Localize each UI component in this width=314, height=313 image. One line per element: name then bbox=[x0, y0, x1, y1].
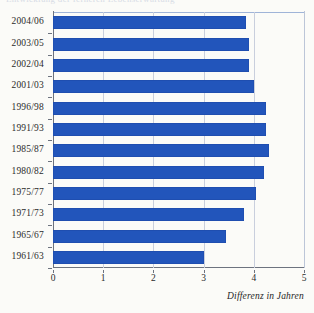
category-label-2003-05: 2003/05 bbox=[11, 38, 44, 48]
category-tick bbox=[48, 55, 52, 56]
x-axis-ticks: 012345 bbox=[0, 270, 314, 286]
bar-fill bbox=[53, 16, 246, 29]
x-tick-label-5: 5 bbox=[302, 273, 307, 283]
category-label-1996-98: 1996/98 bbox=[11, 102, 44, 112]
x-tick-label-0: 0 bbox=[51, 273, 56, 283]
bar-1961-63 bbox=[53, 251, 204, 264]
bar-1996-98 bbox=[53, 102, 266, 115]
x-tick-label-2: 2 bbox=[151, 273, 156, 283]
x-tick-label-1: 1 bbox=[101, 273, 106, 283]
plot-right-frame bbox=[304, 11, 305, 268]
category-tick bbox=[48, 225, 52, 226]
category-tick bbox=[48, 161, 52, 162]
bar-chart-figure: Entwicklung der ferneren Lebenserwartung… bbox=[0, 0, 314, 313]
category-tick bbox=[48, 33, 52, 34]
cropped-title-text: Entwicklung der ferneren Lebenserwartung bbox=[6, 0, 175, 4]
bar-fill bbox=[53, 187, 256, 200]
bar-fill bbox=[53, 208, 244, 221]
category-label-1965-67: 1965/67 bbox=[11, 230, 44, 240]
category-tick bbox=[48, 247, 52, 248]
category-label-1961-63: 1961/63 bbox=[11, 251, 44, 261]
category-label-1985-87: 1985/87 bbox=[11, 144, 44, 154]
bar-1985-87 bbox=[53, 144, 269, 157]
bar-1980-82 bbox=[53, 166, 264, 179]
x-tick-label-4: 4 bbox=[251, 273, 256, 283]
category-label-2001-03: 2001/03 bbox=[11, 80, 44, 90]
bar-fill bbox=[53, 123, 266, 136]
bar-fill bbox=[53, 59, 249, 72]
plot-area bbox=[53, 12, 305, 268]
category-tick bbox=[48, 97, 52, 98]
bar-2002-04 bbox=[53, 59, 249, 72]
bar-1975-77 bbox=[53, 187, 256, 200]
bar-2001-03 bbox=[53, 80, 254, 93]
category-axis: 2004/062003/052002/042001/031996/981991/… bbox=[0, 12, 52, 268]
category-tick bbox=[48, 76, 52, 77]
bar-1971-73 bbox=[53, 208, 244, 221]
category-tick bbox=[48, 119, 52, 120]
bar-fill bbox=[53, 166, 264, 179]
bar-2003-05 bbox=[53, 38, 249, 51]
cropped-title-remnant: Entwicklung der ferneren Lebenserwartung bbox=[0, 0, 314, 9]
bar-fill bbox=[53, 251, 204, 264]
gridline-4 bbox=[254, 12, 255, 268]
bar-1991-93 bbox=[53, 123, 266, 136]
category-tick bbox=[48, 183, 52, 184]
category-label-1975-77: 1975/77 bbox=[11, 187, 44, 197]
category-tick bbox=[48, 268, 52, 269]
plot-top-rule bbox=[53, 12, 305, 13]
bar-fill bbox=[53, 230, 226, 243]
bar-fill bbox=[53, 102, 266, 115]
category-tick bbox=[48, 140, 52, 141]
category-label-1991-93: 1991/93 bbox=[11, 123, 44, 133]
x-tick-label-3: 3 bbox=[201, 273, 206, 283]
bar-fill bbox=[53, 80, 254, 93]
bar-fill bbox=[53, 144, 269, 157]
bar-2004-06 bbox=[53, 16, 246, 29]
category-tick bbox=[48, 204, 52, 205]
category-label-1980-82: 1980/82 bbox=[11, 166, 44, 176]
category-label-1971-73: 1971/73 bbox=[11, 208, 44, 218]
category-label-2002-04: 2002/04 bbox=[11, 59, 44, 69]
bar-fill bbox=[53, 38, 249, 51]
bar-1965-67 bbox=[53, 230, 226, 243]
x-axis-line bbox=[53, 267, 305, 268]
x-axis-caption: Differenz in Jahren bbox=[227, 291, 304, 301]
category-label-2004-06: 2004/06 bbox=[11, 16, 44, 26]
